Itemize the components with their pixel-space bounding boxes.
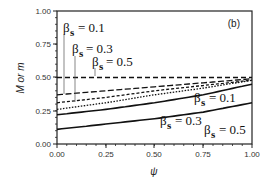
y-axis-label: M or m — [15, 62, 26, 93]
svg-text:= 0.5: = 0.5 — [219, 122, 246, 137]
x-tick-label: 0.75 — [195, 150, 211, 159]
svg-text:β: β — [194, 90, 201, 105]
svg-text:= 0.1: = 0.1 — [78, 20, 105, 35]
panel-label: (b) — [228, 18, 240, 29]
x-tick-label: 0.00 — [49, 150, 65, 159]
y-tick-label: 0.25 — [35, 107, 51, 116]
y-tick-label: 0.50 — [35, 73, 51, 82]
svg-text:= 0.5: = 0.5 — [106, 54, 133, 69]
annotation-upper-3: β s = 0.5 — [92, 54, 133, 72]
svg-text:= 0.3: = 0.3 — [175, 113, 202, 128]
line-chart: 1.00 0.75 0.50 0.25 0.00 0.00 0.25 0.50 … — [0, 0, 276, 187]
y-tick-label: 0.75 — [35, 40, 51, 49]
svg-text:β: β — [72, 41, 79, 56]
svg-text:s: s — [70, 26, 75, 38]
svg-text:β: β — [92, 54, 99, 69]
svg-text:s: s — [79, 47, 84, 59]
x-tick-label: 0.50 — [146, 150, 162, 159]
svg-text:s: s — [201, 96, 206, 108]
svg-text:s: s — [167, 119, 172, 131]
svg-text:β: β — [160, 113, 167, 128]
annotation-lower-3: β s = 0.5 — [204, 122, 246, 140]
svg-text:β: β — [204, 122, 211, 137]
x-tick-label: 1.00 — [244, 150, 260, 159]
svg-text:= 0.1: = 0.1 — [209, 90, 236, 105]
y-tick-label: 0.00 — [35, 140, 51, 149]
svg-text:β: β — [63, 20, 70, 35]
x-tick-label: 0.25 — [98, 150, 114, 159]
svg-text:s: s — [99, 60, 104, 72]
svg-text:s: s — [211, 128, 216, 140]
annotation-lower-1: β s = 0.1 — [194, 90, 236, 108]
x-axis-label: ψ — [150, 166, 158, 177]
annotation-upper-1: β s = 0.1 — [63, 20, 105, 38]
annotation-lower-2: β s = 0.3 — [160, 113, 202, 131]
y-tick-label: 1.00 — [35, 7, 51, 16]
